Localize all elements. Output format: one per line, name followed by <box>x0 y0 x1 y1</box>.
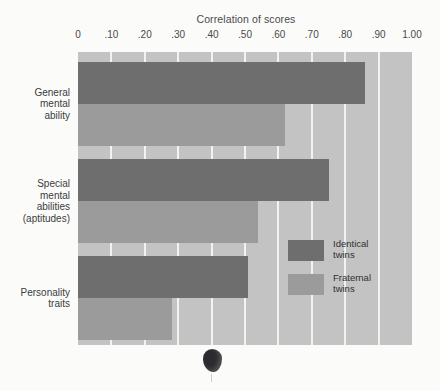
x-tick-label: .40 <box>205 29 219 40</box>
legend-swatch <box>288 274 324 295</box>
legend-item: Identicaltwins <box>288 238 408 272</box>
y-axis-category-labels: GeneralmentalabilitySpecialmentalabiliti… <box>0 52 70 345</box>
x-tick-label: 1.00 <box>402 29 421 40</box>
x-tick-label: .80 <box>338 29 352 40</box>
legend-item: Fraternaltwins <box>288 272 408 306</box>
chart-title: Correlation of scores <box>0 13 440 25</box>
category-label: Specialmentalabilities(aptitudes) <box>0 178 70 224</box>
x-tick-label: .70 <box>305 29 319 40</box>
bar <box>78 62 365 104</box>
category-label: Personalitytraits <box>0 287 70 310</box>
legend-label: Fraternaltwins <box>333 272 371 294</box>
chart-legend: IdenticaltwinsFraternaltwins <box>288 238 408 306</box>
x-tick-label: .20 <box>138 29 152 40</box>
legend-swatch <box>288 240 324 261</box>
x-tick-label: 0 <box>75 29 81 40</box>
bar <box>78 104 285 146</box>
bar <box>78 201 258 243</box>
chart-figure: Correlation of scores 0.10.20.30.40.50.6… <box>0 0 440 391</box>
x-tick-label: .50 <box>238 29 252 40</box>
bar <box>78 159 329 201</box>
x-tick-label: .30 <box>171 29 185 40</box>
category-label: Generalmentalability <box>0 87 70 122</box>
x-axis-ticks: 0.10.20.30.40.50.60.70.80.901.00 <box>0 29 440 43</box>
x-tick-label: .90 <box>372 29 386 40</box>
bar <box>78 298 172 340</box>
decorative-stem-line <box>211 374 212 382</box>
bar <box>78 256 248 298</box>
decorative-seed-icon <box>203 349 222 372</box>
x-tick-label: .60 <box>271 29 285 40</box>
x-tick-label: .10 <box>104 29 118 40</box>
legend-label: Identicaltwins <box>333 238 368 260</box>
